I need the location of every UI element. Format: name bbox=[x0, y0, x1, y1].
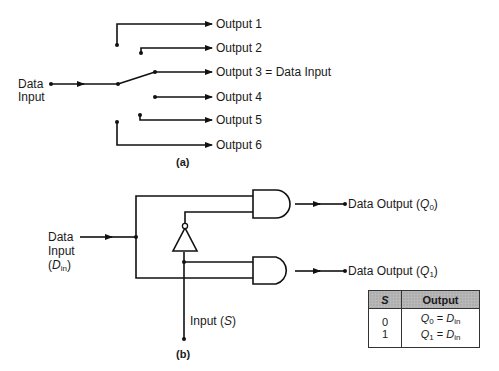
paren: ) bbox=[434, 197, 438, 211]
diagram-a-wires bbox=[51, 24, 212, 145]
s-value: 0 bbox=[371, 316, 399, 328]
truth-table-row: 01 Q0 = Din Q1 = Din bbox=[369, 309, 480, 348]
eq: = bbox=[434, 328, 447, 340]
s-value: 1 bbox=[371, 328, 399, 340]
d-symbol: D bbox=[52, 258, 61, 272]
paren: ) bbox=[434, 264, 438, 278]
data-output-q0-label: Data Output (Q0) bbox=[348, 198, 438, 214]
paren: ) bbox=[67, 258, 71, 272]
q-symbol: Q bbox=[420, 264, 429, 278]
header-s: S bbox=[369, 291, 402, 309]
data-output-q1-label: Data Output (Q1) bbox=[348, 265, 438, 281]
and-gate-bottom bbox=[253, 257, 286, 284]
output-6-label: Output 6 bbox=[216, 139, 262, 152]
q-symbol: Q bbox=[420, 197, 429, 211]
text: Input ( bbox=[190, 314, 224, 328]
select-input-label: Input (S) bbox=[190, 315, 236, 328]
s-values: 01 bbox=[369, 309, 402, 348]
output-eq-row: Q0 = Din bbox=[404, 312, 477, 328]
a-input-label-line2: Input bbox=[18, 91, 45, 104]
output-5-label: Output 5 bbox=[216, 114, 262, 127]
caption-b: (b) bbox=[176, 348, 190, 360]
truth-table: S Output 01 Q0 = Din Q1 = Din bbox=[368, 290, 480, 348]
paren: ) bbox=[232, 314, 236, 328]
output-eq-row: Q1 = Din bbox=[404, 328, 477, 344]
s-symbol: S bbox=[224, 314, 232, 328]
truth-table-header: S Output bbox=[369, 291, 480, 309]
output-values: Q0 = Din Q1 = Din bbox=[402, 309, 480, 348]
b-input-label-line3: (Din) bbox=[48, 259, 71, 275]
q: Q bbox=[421, 328, 430, 340]
eq: = bbox=[434, 312, 447, 324]
and-gate-top bbox=[253, 190, 290, 218]
output-3-label: Output 3 = Data Input bbox=[216, 66, 331, 79]
header-output: Output bbox=[402, 291, 480, 309]
output-1-label: Output 1 bbox=[216, 18, 262, 31]
output-4-label: Output 4 bbox=[216, 91, 262, 104]
b-input-label-line1: Data bbox=[48, 231, 73, 244]
d: D bbox=[446, 312, 454, 324]
caption-a: (a) bbox=[176, 156, 189, 168]
q: Q bbox=[421, 312, 430, 324]
d: D bbox=[446, 328, 454, 340]
text: Data Output ( bbox=[348, 197, 420, 211]
inverter-gate bbox=[173, 228, 197, 251]
sub: in bbox=[454, 317, 460, 326]
b-input-label-line2: Input bbox=[48, 245, 75, 258]
output-2-label: Output 2 bbox=[216, 42, 262, 55]
inverter-bubble bbox=[182, 223, 187, 228]
sub: in bbox=[454, 333, 460, 342]
text: Data Output ( bbox=[348, 264, 420, 278]
